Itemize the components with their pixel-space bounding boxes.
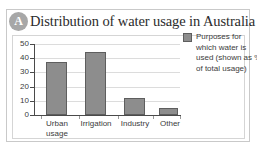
y-tick-10	[30, 101, 35, 102]
gridline-40	[34, 58, 180, 59]
y-axis-label-40: 40	[13, 54, 29, 62]
bar-industry	[124, 98, 145, 115]
y-tick-40	[30, 58, 35, 59]
bar-other	[159, 108, 178, 115]
y-tick-20	[30, 87, 35, 88]
y-axis-line	[34, 44, 35, 116]
legend-label: Purposes for which water is used (shown …	[196, 32, 257, 74]
chart-title: Distribution of water usage in Australia	[30, 11, 248, 32]
y-axis-label-30: 30	[13, 68, 29, 76]
y-tick-50	[30, 44, 35, 45]
gridline-50	[34, 44, 180, 45]
chart-header: A Distribution of water usage in Austral…	[7, 10, 249, 33]
y-tick-0	[30, 115, 35, 116]
y-tick-30	[30, 72, 35, 73]
chart-card: A Distribution of water usage in Austral…	[6, 9, 250, 142]
bar-irrigation	[85, 52, 106, 115]
x-axis-label-irrigation: Irrigation	[75, 119, 117, 129]
chart-screenshot: A Distribution of water usage in Austral…	[0, 0, 257, 155]
x-axis-label-urban-usage: Urban usage	[39, 119, 75, 138]
x-axis-label-urban-line2: usage	[39, 129, 75, 139]
x-axis-label-industry: Industry	[116, 119, 154, 129]
y-axis-label-10: 10	[13, 97, 29, 105]
x-axis-label-other: Other	[154, 119, 186, 129]
y-axis-label-50: 50	[13, 40, 29, 48]
legend-color-swatch	[183, 33, 192, 42]
bar-urban-usage	[46, 62, 67, 115]
y-axis-label-0: 0	[13, 111, 29, 119]
x-axis-label-urban-line1: Urban	[39, 119, 75, 129]
x-axis-line	[34, 115, 181, 116]
panel-label-badge: A	[9, 12, 28, 31]
y-axis-label-20: 20	[13, 83, 29, 91]
